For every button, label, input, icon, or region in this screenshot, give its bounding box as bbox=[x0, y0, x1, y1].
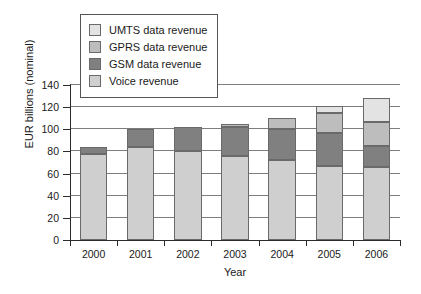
x-axis-tick bbox=[353, 240, 354, 246]
bar-segment[interactable] bbox=[268, 118, 295, 129]
bar-segment[interactable] bbox=[221, 124, 248, 127]
bar-segment[interactable] bbox=[363, 98, 390, 121]
legend-swatch-icon bbox=[89, 41, 101, 53]
x-axis-tick bbox=[306, 240, 307, 246]
x-axis-line bbox=[69, 240, 401, 241]
stacked-bar-chart-figure: 020406080100120140 200020012002200320042… bbox=[0, 0, 421, 294]
legend-swatch-icon bbox=[89, 75, 101, 87]
x-axis-tick bbox=[259, 240, 260, 246]
x-axis-tick bbox=[211, 240, 212, 246]
y-axis-title: EUR billions (nominal) bbox=[23, 19, 35, 169]
x-axis-tick-label: 2005 bbox=[306, 248, 353, 260]
chart-legend: UMTS data revenueGPRS data revenueGSM da… bbox=[80, 14, 218, 98]
y-axis-line bbox=[70, 84, 71, 241]
x-axis-tick-label: 2004 bbox=[259, 248, 306, 260]
plot-area bbox=[70, 85, 400, 240]
y-axis-tick-label: 0 bbox=[19, 235, 59, 246]
bar-segment[interactable] bbox=[316, 106, 343, 113]
bar-group[interactable] bbox=[221, 85, 248, 240]
x-axis-tick bbox=[164, 240, 165, 246]
y-axis-tick-label: 60 bbox=[19, 169, 59, 180]
bar-group[interactable] bbox=[363, 85, 390, 240]
legend-item[interactable]: GPRS data revenue bbox=[89, 39, 207, 55]
legend-item[interactable]: UMTS data revenue bbox=[89, 22, 207, 38]
legend-item-label: GSM data revenue bbox=[109, 58, 201, 70]
y-axis-tick-label: 40 bbox=[19, 191, 59, 202]
legend-swatch-icon bbox=[89, 58, 101, 70]
bar-segment[interactable] bbox=[174, 151, 201, 240]
bar-group[interactable] bbox=[268, 85, 295, 240]
bar-segment[interactable] bbox=[127, 147, 154, 240]
y-axis-tick bbox=[63, 107, 70, 108]
x-axis-tick-label: 2002 bbox=[164, 248, 211, 260]
y-axis-tick bbox=[63, 196, 70, 197]
bar-group[interactable] bbox=[80, 85, 107, 240]
bar-segment[interactable] bbox=[316, 113, 343, 133]
legend-item-label: GPRS data revenue bbox=[109, 41, 207, 53]
y-axis-tick bbox=[63, 174, 70, 175]
bar-group[interactable] bbox=[316, 85, 343, 240]
bar-segment[interactable] bbox=[80, 154, 107, 240]
bar-segment[interactable] bbox=[221, 156, 248, 240]
x-axis-tick-label: 2003 bbox=[211, 248, 258, 260]
x-axis-tick-label: 2006 bbox=[353, 248, 400, 260]
bar-segment[interactable] bbox=[127, 129, 154, 147]
bar-segment[interactable] bbox=[80, 147, 107, 154]
y-axis-tick-label: 20 bbox=[19, 213, 59, 224]
x-axis-tick-label: 2000 bbox=[70, 248, 117, 260]
legend-item[interactable]: GSM data revenue bbox=[89, 56, 207, 72]
legend-item[interactable]: Voice revenue bbox=[89, 73, 207, 89]
bar-segment[interactable] bbox=[363, 122, 390, 146]
x-axis-tick-label: 2001 bbox=[117, 248, 164, 260]
bar-segment[interactable] bbox=[268, 160, 295, 240]
bar-segment[interactable] bbox=[316, 133, 343, 166]
y-axis-tick bbox=[63, 129, 70, 130]
bar-segment[interactable] bbox=[316, 166, 343, 240]
x-axis-tick bbox=[117, 240, 118, 246]
y-axis-tick bbox=[63, 151, 70, 152]
bar-segment[interactable] bbox=[221, 127, 248, 156]
x-axis-tick bbox=[400, 240, 401, 246]
y-axis-tick bbox=[63, 240, 70, 241]
bar-segment[interactable] bbox=[363, 167, 390, 240]
bar-group[interactable] bbox=[174, 85, 201, 240]
x-axis-title: Year bbox=[70, 266, 400, 278]
y-axis-tick bbox=[63, 218, 70, 219]
bar-segment[interactable] bbox=[363, 146, 390, 167]
x-axis-tick bbox=[70, 240, 71, 246]
legend-swatch-icon bbox=[89, 24, 101, 36]
y-axis-tick bbox=[63, 85, 70, 86]
bar-group[interactable] bbox=[127, 85, 154, 240]
legend-item-label: UMTS data revenue bbox=[109, 24, 207, 36]
legend-item-label: Voice revenue bbox=[109, 75, 179, 87]
bar-segment[interactable] bbox=[268, 129, 295, 160]
bar-segment[interactable] bbox=[174, 127, 201, 151]
